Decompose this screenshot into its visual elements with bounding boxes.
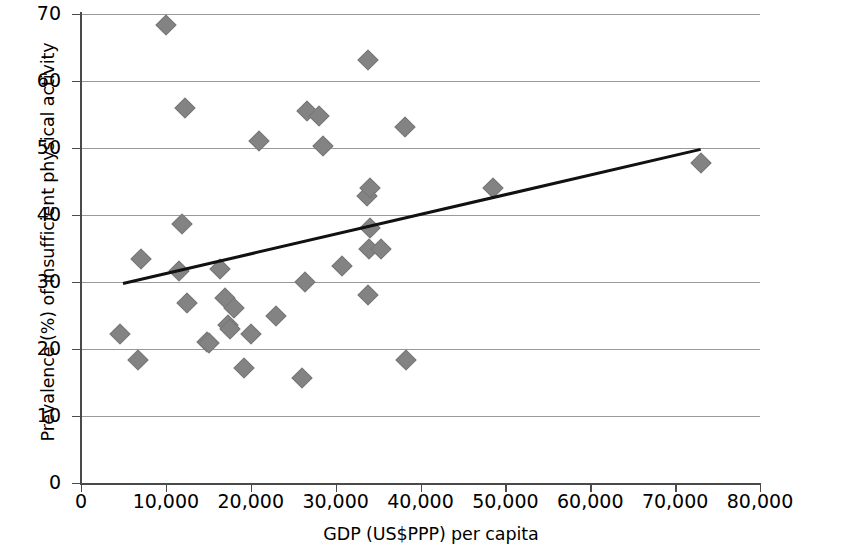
data-point	[109, 324, 130, 345]
data-point	[176, 293, 197, 314]
gridline	[81, 349, 760, 350]
y-tick-label: 50	[15, 138, 61, 157]
y-axis-line	[80, 12, 82, 485]
data-point	[174, 97, 195, 118]
data-point	[294, 271, 315, 292]
y-tick-label: 70	[15, 4, 61, 23]
gridline	[81, 416, 760, 417]
data-point	[357, 49, 378, 70]
gridline	[81, 148, 760, 149]
y-tick-label: 0	[15, 473, 61, 492]
scatter-chart: Prevalence (%) of insufficient physical …	[0, 0, 863, 557]
data-point	[357, 285, 378, 306]
trendline	[123, 148, 701, 285]
data-point	[266, 305, 287, 326]
x-axis-title: GDP (US$PPP) per capita	[81, 524, 781, 544]
gridline	[81, 14, 760, 15]
data-point	[233, 357, 254, 378]
data-point	[131, 248, 152, 269]
data-point	[127, 349, 148, 370]
data-point	[395, 117, 416, 138]
data-point	[291, 368, 312, 389]
y-tick-label: 20	[15, 339, 61, 358]
data-point	[312, 135, 333, 156]
gridline	[81, 81, 760, 82]
gridline	[81, 282, 760, 283]
x-tick-label: 80,000	[700, 492, 820, 511]
y-tick-label: 40	[15, 205, 61, 224]
y-tick-label: 60	[15, 71, 61, 90]
y-tick-label: 10	[15, 406, 61, 425]
data-point	[155, 14, 176, 35]
data-point	[395, 350, 416, 371]
y-tick-label: 30	[15, 272, 61, 291]
data-point	[332, 255, 353, 276]
data-point	[240, 323, 261, 344]
data-point	[171, 213, 192, 234]
data-point	[690, 152, 711, 173]
x-axis-line	[80, 483, 761, 485]
